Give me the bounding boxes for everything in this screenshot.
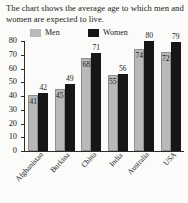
bar-women: 49 [65, 84, 75, 151]
bar-men: 72 [161, 52, 171, 151]
plot-area: 80706050403020100 4142454968715556748072… [24, 41, 184, 152]
bar-value-label: 45 [56, 92, 64, 100]
bar-wrapper: 80 [144, 41, 154, 151]
x-axis-label: Burkina [49, 151, 71, 174]
legend-label-men: Men [45, 28, 60, 37]
legend-swatch-men [30, 29, 41, 37]
legend-swatch-women [88, 29, 99, 37]
y-axis-tick-label: 10 [9, 133, 17, 141]
bar-men: 45 [55, 89, 65, 151]
bar-women: 56 [118, 74, 128, 151]
x-axis-label: Afghanistan [14, 151, 45, 183]
chart-legend: Men Women [30, 27, 156, 38]
bar-wrapper: 56 [118, 41, 128, 151]
legend-item-women: Women [88, 27, 128, 38]
life-expectancy-bar-chart: The chart shows the average age to which… [0, 0, 188, 203]
bar-men: 41 [28, 95, 38, 151]
bar-value-label: 55 [109, 78, 117, 86]
bar-women: 80 [144, 41, 154, 151]
bar-wrapper: 71 [91, 41, 101, 151]
bar-wrapper: 42 [38, 41, 48, 151]
bar-groups: 414245496871555674807279 [25, 41, 184, 151]
y-axis-tick-label: 70 [9, 51, 17, 59]
bar-value-label: 74 [135, 52, 143, 60]
legend-label-women: Women [103, 28, 128, 37]
bar-men: 74 [134, 49, 144, 151]
bar-group: 4142 [28, 41, 48, 151]
bar-women: 71 [91, 53, 101, 151]
bar-group: 4549 [55, 41, 75, 151]
y-axis-tick-label: 50 [9, 78, 17, 86]
x-axis-label: China [80, 151, 98, 169]
y-axis-tick-label: 20 [9, 119, 17, 127]
bar-men: 68 [81, 58, 91, 152]
x-axis-label: India [108, 151, 124, 168]
bar-value-label: 79 [172, 33, 180, 41]
bar-group: 6871 [81, 41, 101, 151]
bar-value-label: 80 [145, 32, 153, 40]
bar-wrapper: 49 [65, 41, 75, 151]
bar-group: 7480 [134, 41, 154, 151]
bar-wrapper: 79 [171, 41, 181, 151]
bar-value-label: 68 [82, 61, 90, 69]
bar-value-label: 56 [119, 65, 127, 73]
x-axis-category-labels: AfghanistanBurkinaChinaIndiaAustraliaUSA [24, 152, 184, 203]
bar-women: 79 [171, 42, 181, 151]
y-axis-tick-label: 30 [9, 106, 17, 114]
y-axis-tick-label: 40 [9, 92, 17, 100]
y-axis-tick-label: 0 [13, 147, 17, 155]
y-axis-tick-label: 80 [9, 37, 17, 45]
x-axis-label: USA [162, 151, 178, 167]
bar-value-label: 42 [39, 84, 47, 92]
bar-value-label: 71 [92, 44, 100, 52]
bar-wrapper: 55 [108, 41, 118, 151]
x-axis-label: Australia [126, 151, 151, 177]
bar-value-label: 72 [162, 55, 170, 63]
y-axis-tick-label: 60 [9, 64, 17, 72]
bar-wrapper: 72 [161, 41, 171, 151]
bar-wrapper: 74 [134, 41, 144, 151]
chart-title: The chart shows the average age to which… [6, 3, 184, 24]
bar-value-label: 41 [29, 98, 37, 106]
bar-wrapper: 68 [81, 41, 91, 151]
bar-value-label: 49 [66, 75, 74, 83]
bar-wrapper: 45 [55, 41, 65, 151]
bar-group: 5556 [108, 41, 128, 151]
bar-group: 7279 [161, 41, 181, 151]
legend-item-men: Men [30, 27, 60, 38]
bar-wrapper: 41 [28, 41, 38, 151]
bar-men: 55 [108, 75, 118, 151]
bar-women: 42 [38, 93, 48, 151]
